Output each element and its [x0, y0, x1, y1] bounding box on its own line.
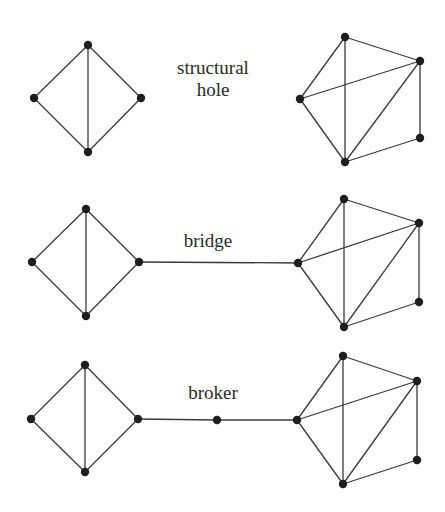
bridge-label: bridge [168, 230, 248, 252]
edge [32, 209, 86, 262]
edge [297, 381, 417, 420]
broker-panel [27, 352, 421, 488]
edge [88, 98, 141, 152]
node [293, 416, 301, 424]
node [28, 258, 36, 266]
node [413, 456, 421, 464]
structural-hole-label-line2: hole [160, 79, 266, 101]
node [84, 148, 92, 156]
structural-hole-label: structural hole [160, 57, 266, 101]
node [82, 205, 90, 213]
node [296, 95, 304, 103]
node [415, 298, 423, 306]
broker-label: broker [173, 382, 253, 404]
edge [343, 381, 417, 484]
node [135, 258, 143, 266]
edge [34, 45, 88, 98]
node [415, 219, 423, 227]
edge [34, 98, 88, 152]
edge [343, 356, 417, 381]
edge [344, 302, 419, 327]
edge [300, 61, 420, 99]
edge [300, 99, 345, 162]
edge [88, 45, 141, 98]
edge [86, 209, 139, 262]
bridge-panel [28, 195, 423, 331]
node [213, 416, 221, 424]
node [340, 323, 348, 331]
edge [85, 365, 138, 419]
edge [32, 262, 86, 316]
edge [298, 199, 344, 263]
edge [85, 419, 138, 472]
node [137, 94, 145, 102]
edge [297, 356, 343, 420]
node [134, 415, 142, 423]
edge [343, 460, 417, 484]
node [27, 415, 35, 423]
node [30, 94, 38, 102]
edge [31, 419, 85, 472]
node [339, 352, 347, 360]
node [81, 468, 89, 476]
edge [138, 419, 217, 420]
edge [86, 262, 139, 316]
node [416, 57, 424, 65]
structural-hole-label-line1: structural [160, 57, 266, 79]
node [341, 33, 349, 41]
node [340, 195, 348, 203]
edge [297, 420, 343, 484]
edge [344, 223, 419, 327]
node [82, 312, 90, 320]
edge [345, 37, 420, 61]
edge [345, 61, 420, 162]
node [416, 134, 424, 142]
node [84, 41, 92, 49]
edge [300, 37, 345, 99]
node [81, 361, 89, 369]
node [339, 480, 347, 488]
node [341, 158, 349, 166]
edge [298, 223, 419, 263]
edge [139, 262, 298, 263]
node [294, 259, 302, 267]
edge [344, 199, 419, 223]
edge [298, 263, 344, 327]
edge [31, 365, 85, 419]
node [413, 377, 421, 385]
edge [345, 138, 420, 162]
